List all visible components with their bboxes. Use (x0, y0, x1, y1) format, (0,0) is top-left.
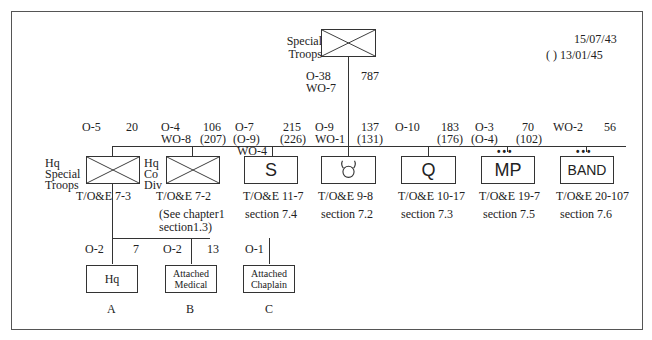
sub-unit-letter: A (107, 303, 116, 316)
top-connector (348, 57, 349, 146)
unit-officers-alt: (O-4) (471, 133, 498, 146)
sub-unit-letter: B (186, 303, 194, 316)
sub-unit-label: Chaplain (244, 279, 294, 290)
unit-toe: T/O&E 10-17 (398, 190, 465, 203)
unit-signal-symbol[interactable]: S (244, 156, 298, 184)
sub-unit-officers: O-2 (163, 243, 182, 256)
unit-strength: 20 (126, 121, 138, 134)
sub-unit-label: Attached (166, 268, 216, 279)
sub-unit-strength: 7 (133, 243, 139, 256)
sub-connector (191, 238, 192, 264)
unit-section: section 7.3 (401, 208, 453, 221)
unit-quartermaster-symbol[interactable]: Q (401, 156, 456, 184)
military-police-icon: MP (482, 157, 534, 183)
top-unit-symbol[interactable] (321, 29, 376, 57)
unit-section: section 7.2 (321, 208, 373, 221)
infantry-cross-icon (322, 30, 375, 56)
main-bus-line (112, 146, 626, 147)
sub-bus-line (112, 238, 210, 239)
infantry-cross-icon (167, 157, 219, 183)
date-revised: ( ) 13/01/45 (546, 49, 603, 62)
unit-hq-special-troops-symbol[interactable] (86, 156, 140, 184)
unit-hq-co-div-symbol[interactable] (166, 156, 220, 184)
unit-toe: T/O&E 20-107 (556, 190, 629, 203)
unit-military-police-symbol[interactable]: MP (481, 156, 535, 184)
unit-section: section 7.5 (483, 208, 535, 221)
unit-toe: T/O&E 9-8 (318, 190, 373, 203)
date-original: 15/07/43 (574, 33, 617, 46)
signal-icon: S (245, 157, 297, 183)
unit-section: section 7.4 (245, 208, 297, 221)
unit-ordnance-symbol[interactable] (321, 156, 376, 184)
sub-unit-label: Attached (244, 268, 294, 279)
unit-strength-alt: (131) (357, 133, 383, 146)
unit-officers: O-5 (82, 121, 101, 134)
sub-unit-hq-box[interactable]: Hq (86, 265, 138, 293)
sub-connector (269, 238, 270, 264)
sub-unit-attached-chaplain-box[interactable]: Attached Chaplain (243, 265, 295, 293)
top-unit-label-2: Troops (276, 48, 322, 61)
unit-toe: T/O&E 11-7 (243, 190, 304, 203)
sub-unit-officers: O-1 (245, 243, 264, 256)
unit-section: section 7.6 (560, 208, 612, 221)
sub-connector (112, 238, 113, 264)
top-strength: 787 (361, 70, 379, 83)
quartermaster-icon: Q (402, 157, 455, 183)
sub-unit-letter: C (265, 303, 273, 316)
sub-unit-label: Hq (87, 266, 137, 292)
unit-warrants: WO-2 (553, 121, 583, 134)
unit-warrants: WO-8 (161, 133, 191, 146)
unit-toe: T/O&E 7-3 (76, 190, 131, 203)
unit-toe: T/O&E 7-2 (156, 190, 211, 203)
unit-strength-alt: (226) (280, 133, 306, 146)
sub-unit-officers: O-2 (85, 243, 104, 256)
unit-strength-alt: (207) (200, 133, 226, 146)
unit-name: Troops (45, 179, 79, 192)
band-icon: BAND (561, 157, 613, 183)
unit-strength-alt: (102) (516, 133, 542, 146)
unit-band-symbol[interactable]: BAND (560, 156, 614, 184)
unit-strength-alt: (176) (437, 133, 463, 146)
unit-officers: O-10 (395, 121, 420, 134)
unit-warrants: WO-1 (315, 133, 345, 146)
sub-connector (112, 184, 113, 239)
unit-note: section1.3) (159, 221, 212, 234)
unit-toe: T/O&E 19-7 (479, 190, 540, 203)
unit-strength: 56 (604, 121, 616, 134)
sub-unit-strength: 13 (207, 243, 219, 256)
sub-unit-label: Medical (166, 279, 216, 290)
infantry-cross-icon (87, 157, 139, 183)
sub-unit-attached-medical-box[interactable]: Attached Medical (165, 265, 217, 293)
top-warrants: WO-7 (306, 82, 336, 95)
ordnance-bomb-icon (322, 157, 375, 183)
